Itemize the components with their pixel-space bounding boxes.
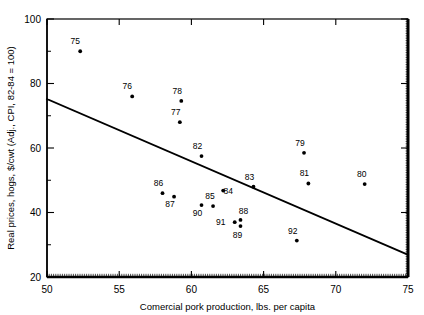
data-point-label: 75 <box>70 36 80 46</box>
data-point-label: 88 <box>239 206 249 216</box>
data-point-label: 82 <box>193 141 203 151</box>
data-point-marker[interactable] <box>239 218 243 222</box>
data-point-marker[interactable] <box>179 99 183 103</box>
x-axis-title: Comercial pork production, lbs. per capi… <box>140 301 316 312</box>
data-point-label: 86 <box>154 178 164 188</box>
regression-line <box>47 99 408 255</box>
data-point-label: 77 <box>171 107 181 117</box>
data-point-marker[interactable] <box>252 185 256 189</box>
data-point-label: 76 <box>122 81 132 91</box>
y-tick-label: 100 <box>24 14 41 25</box>
data-point-label: 90 <box>193 208 203 218</box>
y-tick-label: 20 <box>30 272 42 283</box>
data-point-marker[interactable] <box>211 204 215 208</box>
x-tick-label: 70 <box>330 284 342 295</box>
data-point-label: 84 <box>223 186 233 196</box>
y-axis-title: Real prices, hogs, $/cwt (Adj., CPI, 82-… <box>5 46 16 250</box>
data-point-marker[interactable] <box>363 182 367 186</box>
data-point-marker[interactable] <box>78 49 82 53</box>
data-point-label: 83 <box>245 172 255 182</box>
data-point-label: 85 <box>205 191 215 201</box>
data-point-label: 87 <box>165 199 175 209</box>
y-tick-label: 80 <box>30 78 42 89</box>
y-tick-label: 60 <box>30 143 42 154</box>
data-point-marker[interactable] <box>200 154 204 158</box>
data-point-marker[interactable] <box>295 239 299 243</box>
chart-canvas: 5055606570752040608010075767877827981808… <box>0 0 424 315</box>
data-point-marker[interactable] <box>130 95 134 99</box>
data-point-label: 80 <box>357 169 367 179</box>
x-tick-label: 50 <box>41 284 53 295</box>
x-tick-label: 55 <box>114 284 126 295</box>
data-point-marker[interactable] <box>239 224 243 228</box>
data-point-label: 92 <box>288 226 298 236</box>
data-point-marker[interactable] <box>302 151 306 155</box>
data-point-marker[interactable] <box>200 203 204 207</box>
data-point-label: 79 <box>295 138 305 148</box>
data-point-marker[interactable] <box>306 182 310 186</box>
x-tick-label: 65 <box>258 284 270 295</box>
data-point-label: 89 <box>233 230 243 240</box>
x-tick-label: 60 <box>186 284 198 295</box>
x-tick-label: 75 <box>402 284 414 295</box>
y-tick-label: 40 <box>30 207 42 218</box>
data-point-label: 91 <box>216 217 226 227</box>
data-point-marker[interactable] <box>178 120 182 124</box>
scatter-plot-figure: 5055606570752040608010075767877827981808… <box>0 0 424 315</box>
plot-frame <box>47 19 408 277</box>
data-point-label: 81 <box>300 168 310 178</box>
data-point-marker[interactable] <box>233 220 237 224</box>
data-point-label: 78 <box>173 86 183 96</box>
data-point-marker[interactable] <box>161 191 165 195</box>
